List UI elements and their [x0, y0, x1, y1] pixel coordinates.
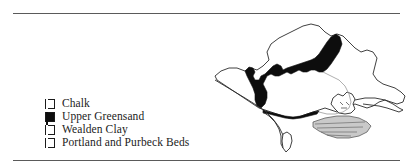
bottom-rule [13, 160, 400, 161]
isle-of-portland [282, 132, 292, 152]
legend-label-portland-purbeck-beds: Portland and Purbeck Beds [62, 136, 189, 149]
legend-item-chalk: Chalk [45, 97, 220, 110]
legend-swatch-portland-purbeck-beds [45, 138, 55, 148]
legend-swatch-upper-greensand [45, 112, 55, 122]
legend-label-upper-greensand: Upper Greensand [62, 110, 144, 123]
legend-label-wealden-clay: Wealden Clay [62, 123, 128, 136]
legend-item-portland-purbeck-beds: Portland and Purbeck Beds [45, 136, 220, 149]
legend-item-upper-greensand: Upper Greensand [45, 110, 220, 123]
legend-swatch-chalk [45, 99, 55, 109]
legend-swatch-wealden-clay [45, 125, 55, 135]
main-outcrop-outline [215, 24, 405, 118]
legend-item-wealden-clay: Wealden Clay [45, 123, 220, 136]
legend-label-chalk: Chalk [62, 97, 90, 110]
geological-map [207, 14, 412, 159]
map-legend: Chalk Upper Greensand Wealden Clay Portl… [45, 97, 220, 149]
geological-map-figure: Chalk Upper Greensand Wealden Clay Portl… [0, 0, 418, 167]
